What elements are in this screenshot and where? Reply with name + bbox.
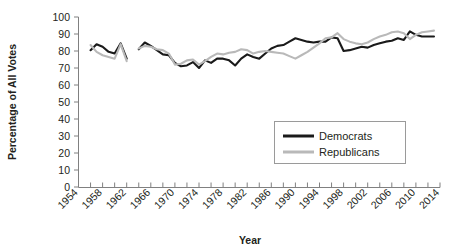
y-tick-label: 10 bbox=[58, 164, 70, 176]
legend-label-democrats: Democrats bbox=[319, 130, 373, 142]
y-tick-label: 30 bbox=[58, 130, 70, 142]
y-tick-label: 70 bbox=[58, 62, 70, 74]
y-tick-label: 50 bbox=[58, 96, 70, 108]
y-tick-label: 90 bbox=[58, 28, 70, 40]
y-tick-label: 60 bbox=[58, 79, 70, 91]
legend-label-republicans: Republicans bbox=[319, 146, 380, 158]
x-axis-title: Year bbox=[239, 234, 261, 246]
y-tick-label: 100 bbox=[52, 11, 70, 23]
y-tick-label: 20 bbox=[58, 147, 70, 159]
y-axis-title: Percentage of All Votes bbox=[6, 44, 18, 160]
y-tick-label: 40 bbox=[58, 113, 70, 125]
line-chart: Percentage of All Votes 0102030405060708… bbox=[0, 0, 467, 250]
chart-legend: Democrats Republicans bbox=[275, 122, 406, 164]
y-tick-label: 80 bbox=[58, 45, 70, 57]
chart-container: Percentage of All Votes 0102030405060708… bbox=[0, 0, 467, 250]
y-axis-title-text: Percentage of All Votes bbox=[6, 44, 18, 160]
x-axis-title-text: Year bbox=[239, 234, 261, 246]
